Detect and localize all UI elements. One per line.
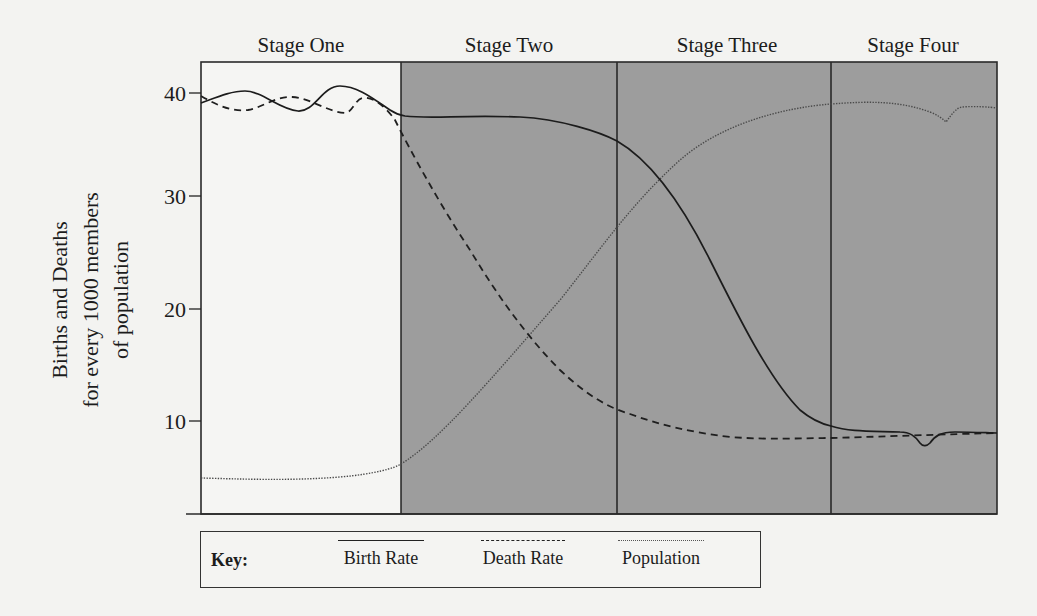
solid-line-swatch-icon (338, 540, 424, 541)
demographic-transition-chart: 40 30 20 10 Births and Deaths for every … (0, 0, 1037, 616)
y-axis-label: Births and Deaths for every 1000 members… (47, 192, 133, 408)
legend-label-death-rate: Death Rate (483, 548, 563, 568)
y-axis-label-line-2: for every 1000 members (78, 192, 103, 408)
legend-key-label: Key: (211, 550, 248, 571)
y-ticks (189, 93, 201, 421)
legend-label-birth-rate: Birth Rate (344, 548, 419, 568)
stage-label-three: Stage Three (677, 33, 778, 57)
y-tick-label-40: 40 (164, 81, 186, 106)
dashed-line-swatch-icon (481, 540, 565, 541)
legend-label-population: Population (622, 548, 700, 568)
legend-box: Key: Birth Rate Death Rate Population (200, 531, 761, 588)
y-tick-label-30: 30 (164, 184, 186, 209)
legend-item-death-rate: Death Rate (463, 540, 583, 569)
stage-one-region (201, 62, 401, 514)
stage-label-two: Stage Two (465, 33, 554, 57)
stage-label-four: Stage Four (867, 33, 959, 57)
legend-item-birth-rate: Birth Rate (323, 540, 439, 569)
legend-item-population: Population (601, 540, 721, 569)
y-axis-label-line-3: of population (108, 241, 133, 359)
y-tick-label-10: 10 (164, 409, 186, 434)
stage-label-one: Stage One (258, 33, 345, 57)
y-axis-label-line-1: Births and Deaths (47, 221, 72, 379)
y-tick-label-20: 20 (164, 297, 186, 322)
dotted-line-swatch-icon (618, 540, 704, 541)
shaded-stages-region (401, 62, 997, 514)
